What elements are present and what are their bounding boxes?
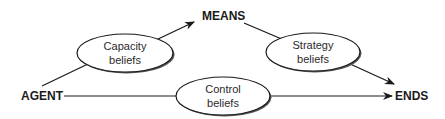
strategy-beliefs-line1: Strategy bbox=[283, 38, 343, 52]
strategy-beliefs-line2: beliefs bbox=[283, 52, 343, 66]
ends-node-label: ENDS bbox=[395, 90, 428, 102]
agent-to-means-line-lower bbox=[42, 63, 90, 86]
means-to-ends-arrow bbox=[348, 63, 394, 84]
agent-to-means-arrow bbox=[156, 22, 194, 40]
control-beliefs-line2: beliefs bbox=[193, 96, 253, 110]
agent-node-label: AGENT bbox=[21, 90, 63, 102]
capacity-beliefs-label: Capacity beliefs bbox=[95, 39, 155, 67]
strategy-beliefs-label: Strategy beliefs bbox=[283, 38, 343, 66]
means-node-label: MEANS bbox=[202, 10, 245, 22]
control-beliefs-line1: Control bbox=[193, 82, 253, 96]
means-to-ends-line-upper bbox=[244, 23, 284, 40]
capacity-beliefs-line2: beliefs bbox=[95, 53, 155, 67]
agent-means-ends-diagram: AGENT MEANS ENDS Capacity beliefs Strate… bbox=[0, 0, 445, 119]
control-beliefs-label: Control beliefs bbox=[193, 82, 253, 110]
capacity-beliefs-line1: Capacity bbox=[95, 39, 155, 53]
